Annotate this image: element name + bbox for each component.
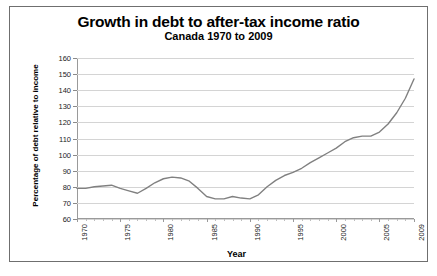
x-tick-mark-minor: [362, 219, 363, 221]
x-tick-label: 1995: [296, 224, 305, 241]
x-tick-mark-minor: [129, 219, 130, 221]
x-tick-mark-minor: [233, 219, 234, 221]
x-tick-mark: [120, 219, 121, 222]
x-tick-label: 2009: [417, 224, 426, 241]
x-tick-mark: [207, 219, 208, 222]
x-tick-mark-minor: [276, 219, 277, 221]
x-tick-mark-minor: [258, 219, 259, 221]
x-tick-mark-minor: [137, 219, 138, 221]
x-tick-mark-minor: [224, 219, 225, 221]
x-tick-mark-minor: [172, 219, 173, 221]
x-tick-mark: [293, 219, 294, 222]
x-tick-label: 1970: [80, 224, 89, 241]
x-tick-mark-minor: [405, 219, 406, 221]
data-series-line: [77, 58, 414, 219]
chart-title: Growth in debt to after-tax income ratio: [10, 13, 427, 30]
x-tick-mark-minor: [94, 219, 95, 221]
x-tick-mark-minor: [112, 219, 113, 221]
gridline-y: [77, 219, 414, 220]
x-tick-mark-minor: [146, 219, 147, 221]
x-tick-mark: [414, 219, 415, 222]
series-polyline: [77, 79, 414, 199]
y-axis-title-label: Percentage of debt relative to income: [31, 64, 40, 206]
x-tick-label: 1990: [253, 224, 262, 241]
x-tick-mark-minor: [302, 219, 303, 221]
x-tick-mark: [77, 219, 78, 222]
x-tick-mark-minor: [155, 219, 156, 221]
y-tick-label: 130: [58, 102, 71, 111]
x-tick-mark-minor: [354, 219, 355, 221]
y-tick-label: 110: [59, 134, 71, 143]
x-tick-mark-minor: [371, 219, 372, 221]
x-tick-mark-minor: [267, 219, 268, 221]
x-tick-mark-minor: [103, 219, 104, 221]
y-tick-label: 150: [58, 70, 71, 79]
y-tick-label: 120: [58, 118, 71, 127]
plot-area: 16015014013012011010090807060 1970197519…: [77, 58, 414, 219]
x-tick-mark-minor: [310, 219, 311, 221]
x-tick-mark-minor: [284, 219, 285, 221]
x-tick-mark-minor: [345, 219, 346, 221]
x-tick-label: 2000: [339, 224, 348, 241]
y-tick-label: 80: [63, 182, 71, 191]
x-tick-mark: [379, 219, 380, 222]
x-tick-mark: [336, 219, 337, 222]
chart-card: Growth in debt to after-tax income ratio…: [9, 6, 428, 262]
x-tick-mark-minor: [189, 219, 190, 221]
x-tick-mark-minor: [86, 219, 87, 221]
x-tick-mark-minor: [397, 219, 398, 221]
y-tick-label: 140: [58, 86, 71, 95]
x-axis-title: Year: [59, 249, 414, 259]
x-tick-mark-minor: [181, 219, 182, 221]
plot-frame: 16015014013012011010090807060 1970197519…: [59, 49, 414, 221]
x-tick-mark: [163, 219, 164, 222]
x-tick-label: 2005: [382, 224, 391, 241]
y-tick-label: 160: [58, 54, 71, 63]
x-tick-mark-minor: [319, 219, 320, 221]
x-tick-mark-minor: [215, 219, 216, 221]
x-tick-label: 1985: [210, 224, 219, 241]
chart-subtitle: Canada 1970 to 2009: [10, 30, 427, 43]
y-tick-label: 100: [58, 150, 71, 159]
x-tick-mark-minor: [388, 219, 389, 221]
title-block: Growth in debt to after-tax income ratio…: [10, 13, 427, 43]
x-tick-mark-minor: [198, 219, 199, 221]
x-tick-label: 1980: [166, 224, 175, 241]
x-tick-mark: [250, 219, 251, 222]
y-axis-title: Percentage of debt relative to income: [29, 49, 41, 221]
x-tick-label: 1975: [123, 224, 132, 241]
x-tick-mark-minor: [328, 219, 329, 221]
y-tick-label: 60: [63, 215, 71, 224]
y-tick-label: 70: [63, 198, 71, 207]
y-tick-label: 90: [63, 166, 71, 175]
x-tick-mark-minor: [241, 219, 242, 221]
